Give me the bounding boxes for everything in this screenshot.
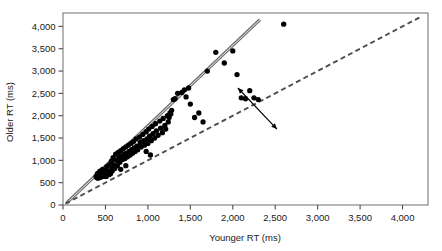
x-tick-label: 1,000 [136,212,160,223]
data-point [186,85,191,90]
x-axis-ticks [63,205,403,210]
x-tick-label: 500 [98,212,114,223]
y-tick-label: 1,000 [32,155,56,166]
x-tick-label: 4,000 [391,212,415,223]
data-point [205,68,210,73]
y-axis-label: Older RT (ms) [4,82,15,142]
data-point [118,167,123,172]
y-tick-label: 3,500 [32,43,56,54]
x-axis-tick-labels: 05001,0001,5002,0002,5003,0003,5004,000 [60,212,414,223]
x-axis-label: Younger RT (ms) [209,232,281,243]
x-tick-label: 3,000 [306,212,330,223]
x-tick-label: 1,500 [178,212,202,223]
data-point [213,50,218,55]
data-point [256,97,261,102]
chart-figure: 05001,0001,5002,0002,5003,0003,5004,000 … [0,0,442,251]
x-tick-label: 0 [60,212,65,223]
y-tick-label: 500 [40,177,56,188]
data-point [148,152,153,157]
data-point [123,163,128,168]
data-point [163,126,168,131]
y-tick-label: 2,000 [32,110,56,121]
data-point [144,149,149,154]
data-point [247,88,252,93]
y-tick-label: 3,000 [32,65,56,76]
data-point [172,96,177,101]
data-point [234,72,239,77]
data-point [188,101,193,106]
y-axis-tick-labels: 05001,0001,5002,0002,5003,0003,5004,000 [32,21,56,211]
y-tick-label: 4,000 [32,21,56,32]
x-tick-label: 3,500 [348,212,372,223]
data-point [183,94,188,99]
data-point [222,60,227,65]
data-point [169,108,174,113]
y-tick-label: 1,500 [32,132,56,143]
scatter-plot-svg: 05001,0001,5002,0002,5003,0003,5004,000 … [0,0,442,251]
data-point [192,115,197,120]
x-tick-label: 2,000 [221,212,245,223]
data-point [166,119,171,124]
data-point [281,22,286,27]
y-tick-label: 0 [50,199,55,210]
y-axis-ticks [59,26,64,205]
data-point [230,48,235,53]
y-tick-label: 2,500 [32,88,56,99]
data-point [200,119,205,124]
x-tick-label: 2,500 [263,212,287,223]
data-point [196,110,201,115]
